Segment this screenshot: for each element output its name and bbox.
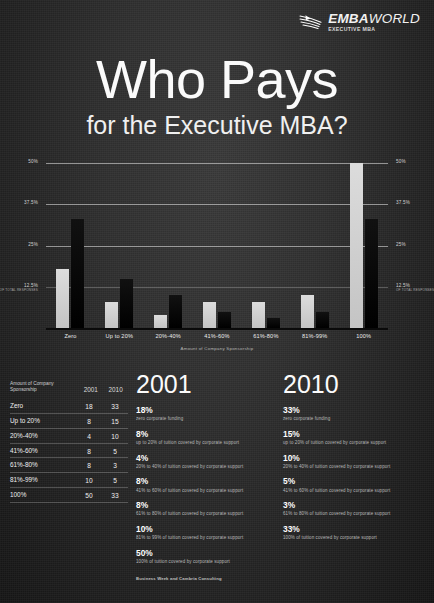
table-cell-category: 20%-40% <box>10 432 76 440</box>
stat-item-2001: 18%zero corporate funding <box>136 406 276 422</box>
x-axis-label: 61%-80% <box>241 333 290 339</box>
bar-2010-20-40- <box>169 295 182 328</box>
stat-description: zero corporate funding <box>136 416 276 422</box>
stat-percent: 4% <box>136 454 276 463</box>
logo-text-block: EMBAWORLD EXECUTIVE MBA <box>328 12 420 32</box>
chart-baseline <box>46 328 388 330</box>
stat-description: zero corporate funding <box>283 416 428 422</box>
bar-2010-61-80- <box>267 318 280 328</box>
table-row: 61%-80%83 <box>10 458 128 473</box>
stat-percent: 18% <box>136 406 276 415</box>
stat-description: 61% to 80% of tuition covered by corpora… <box>283 511 428 517</box>
table-cell-2001: 18 <box>76 403 102 410</box>
y-axis-tick-right: 50% <box>396 159 406 164</box>
data-table: Amount of Company Sponsorship20012010Zer… <box>10 378 128 503</box>
bar-chart: 50%37.5%25%12.5%OF TOTAL RESPONSES 50%37… <box>0 163 434 353</box>
stat-description: up to 20% of tuition covered by corporat… <box>136 440 276 446</box>
stat-percent: 3% <box>283 501 428 510</box>
table-header-category: Amount of Company Sponsorship <box>10 381 78 393</box>
stat-percent: 50% <box>136 549 276 558</box>
logo-tagline: EXECUTIVE MBA <box>328 27 420 32</box>
bar-group <box>95 163 144 328</box>
page-subtitle: for the Executive MBA? <box>0 113 434 138</box>
table-cell-2010: 10 <box>102 433 128 440</box>
stat-item-2001: 8%up to 20% of tuition covered by corpor… <box>136 430 276 446</box>
table-cell-2001: 10 <box>76 477 102 484</box>
table-header-2001: 2001 <box>78 386 103 393</box>
stat-item-2010: 33%100% of tuition covered by corporate … <box>283 525 428 541</box>
bar-group <box>144 163 193 328</box>
stat-description: 81% to 99% of tuition covered by corpora… <box>136 535 276 541</box>
stat-item-2010: 5%41% to 60% of tuition covered by corpo… <box>283 477 428 493</box>
bar-2010-41-60- <box>218 312 231 329</box>
bar-2010-81-99- <box>316 312 329 329</box>
y-axis-tick-left: 12.5%OF TOTAL RESPONSES <box>0 283 38 293</box>
stat-item-2010: 15%up to 20% of tuition covered by corpo… <box>283 430 428 446</box>
table-cell-2001: 4 <box>76 433 102 440</box>
y-axis-tick-note: OF TOTAL RESPONSES <box>0 288 38 292</box>
page-title: Who Pays <box>0 52 434 106</box>
bar-2001-61-80- <box>252 302 265 328</box>
year-heading-2001: 2001 <box>136 372 276 397</box>
x-axis-label: 100% <box>339 333 388 339</box>
y-axis-tick-left: 25% <box>28 242 38 247</box>
stat-percent: 33% <box>283 525 428 534</box>
stat-item-2010: 33%zero corporate funding <box>283 406 428 422</box>
x-axis-label: Up to 20% <box>95 333 144 339</box>
logo-wordmark-bold: EMBA <box>328 11 369 26</box>
stat-percent: 5% <box>283 477 428 486</box>
bar-2010-zero <box>71 219 84 328</box>
table-cell-category: 81%-99% <box>10 476 76 484</box>
x-axis-labels: ZeroUp to 20%20%-40%41%-60%61%-80%81%-99… <box>46 333 388 339</box>
chart-bars <box>46 163 388 328</box>
stat-description: 100% of tuition covered by corporate sup… <box>136 559 276 565</box>
y-axis-tick-right: 25% <box>396 242 406 247</box>
swoosh-icon <box>299 14 323 30</box>
table-cell-2010: 15 <box>102 418 128 425</box>
bar-group <box>339 163 388 328</box>
table-row: 41%-60%85 <box>10 444 128 459</box>
y-axis-tick-right: 12.5%OF TOTAL RESPONSES <box>396 283 434 293</box>
stat-percent: 8% <box>136 430 276 439</box>
table-cell-category: Up to 20% <box>10 417 76 425</box>
y-axis-tick-note: OF TOTAL RESPONSES <box>396 288 434 292</box>
bar-group <box>46 163 95 328</box>
chart-plot-area: 50%37.5%25%12.5%OF TOTAL RESPONSES 50%37… <box>46 163 388 328</box>
stat-item-2001: 8%41% to 60% of tuition covered by corpo… <box>136 477 276 493</box>
stat-description: 20% to 40% of tuition covered by corpora… <box>136 464 276 470</box>
source-credit: Business Week and Cambria Consulting <box>136 576 222 581</box>
bar-2001-20-40- <box>154 315 167 328</box>
table-row: Zero1833 <box>10 399 128 414</box>
table-row: 20%-40%410 <box>10 429 128 444</box>
table-row: 100%5033 <box>10 488 128 503</box>
stat-percent: 8% <box>136 501 276 510</box>
table-cell-category: Zero <box>10 402 76 410</box>
table-cell-2001: 8 <box>76 448 102 455</box>
bar-group <box>290 163 339 328</box>
bar-2001-81-99- <box>301 295 314 328</box>
table-row: 81%-99%105 <box>10 473 128 488</box>
stat-description: 61% to 80% of tuition covered by corpora… <box>136 511 276 517</box>
table-cell-category: 100% <box>10 491 76 499</box>
stat-item-2001: 50%100% of tuition covered by corporate … <box>136 549 276 565</box>
stat-description: 100% of tuition covered by corporate sup… <box>283 535 428 541</box>
bar-group <box>241 163 290 328</box>
stat-percent: 10% <box>283 454 428 463</box>
table-cell-category: 61%-80% <box>10 461 76 469</box>
stat-description: 41% to 60% of tuition covered by corpora… <box>283 488 428 494</box>
table-cell-2010: 5 <box>102 448 128 455</box>
bar-2001-41-60- <box>203 302 216 328</box>
bar-2010-100- <box>365 219 378 328</box>
stat-item-2001: 8%61% to 80% of tuition covered by corpo… <box>136 501 276 517</box>
stat-list-2001: 18%zero corporate funding8%up to 20% of … <box>136 406 276 565</box>
table-cell-2010: 5 <box>102 477 128 484</box>
stat-percent: 8% <box>136 477 276 486</box>
infographic-poster: EMBAWORLD EXECUTIVE MBA Who Pays for the… <box>0 0 434 603</box>
table-header-row: Amount of Company Sponsorship20012010 <box>10 378 128 399</box>
table-row: Up to 20%815 <box>10 414 128 429</box>
bar-group <box>193 163 242 328</box>
table-cell-2010: 33 <box>102 492 128 499</box>
stat-percent: 15% <box>283 430 428 439</box>
y-axis-tick-right: 37.5% <box>396 200 410 205</box>
year-heading-2010: 2010 <box>283 372 428 397</box>
